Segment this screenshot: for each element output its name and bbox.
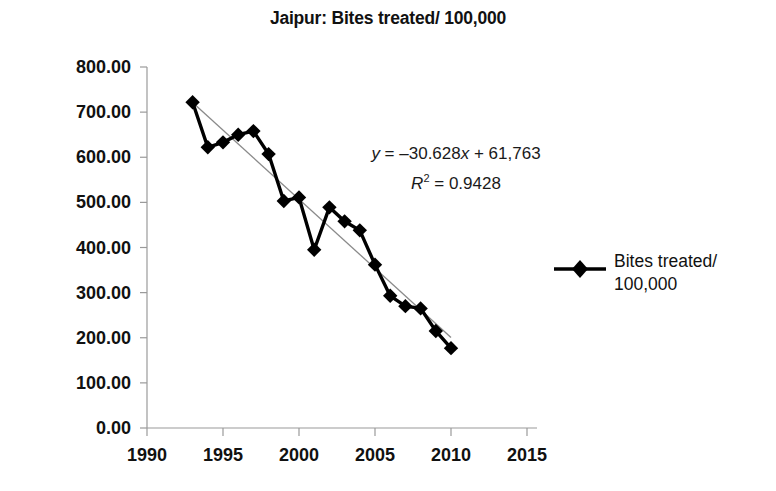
y-axis: 0.00100.00200.00300.00400.00500.00600.00… [76, 57, 147, 438]
r-value: = 0.9428 [430, 174, 501, 193]
y-tick-label: 500.00 [76, 192, 131, 212]
data-point-marker [277, 194, 291, 208]
x-tick-label: 1995 [203, 445, 243, 465]
data-point-marker [201, 140, 215, 154]
y-tick-label: 200.00 [76, 328, 131, 348]
x-tick-label: 2000 [279, 445, 319, 465]
equation-body: = –30.628 [380, 144, 461, 163]
r-squared-label: R2 = 0.9428 [336, 172, 576, 194]
y-tick-label: 300.00 [76, 283, 131, 303]
y-tick-label: 800.00 [76, 57, 131, 77]
equation-tail: + 61,763 [469, 144, 540, 163]
legend-label: Bites treated/ 100,000 [614, 250, 717, 296]
chart-plot-area: 0.00100.00200.00300.00400.00500.00600.00… [0, 0, 776, 491]
y-tick-label: 700.00 [76, 102, 131, 122]
data-point-marker [307, 243, 321, 257]
y-tick-label: 600.00 [76, 147, 131, 167]
trendline-equation-label: y = –30.628x + 61,763 [336, 144, 576, 164]
chart-legend: Bites treated/ 100,000 [552, 250, 772, 296]
x-tick-label: 2015 [507, 445, 547, 465]
y-tick-label: 400.00 [76, 238, 131, 258]
r-symbol: R [411, 174, 423, 193]
legend-label-line2: 100,000 [614, 273, 717, 296]
equation-x-symbol: x [461, 144, 470, 163]
x-axis: 199019952000200520102015 [127, 428, 547, 465]
data-point-marker [368, 257, 382, 271]
data-point-marker [292, 190, 306, 204]
legend-label-line1: Bites treated/ [614, 250, 717, 273]
x-tick-label: 2010 [431, 445, 471, 465]
legend-key-icon [552, 259, 608, 279]
y-tick-label: 100.00 [76, 373, 131, 393]
data-series-line [193, 102, 451, 348]
data-point-marker [353, 223, 367, 237]
y-tick-label: 0.00 [96, 418, 131, 438]
data-point-marker [216, 135, 230, 149]
x-tick-label: 1990 [127, 445, 167, 465]
chart-container: Jaipur: Bites treated/ 100,000 0.00100.0… [0, 0, 776, 491]
equation-y-symbol: y [371, 144, 380, 163]
x-tick-label: 2005 [355, 445, 395, 465]
